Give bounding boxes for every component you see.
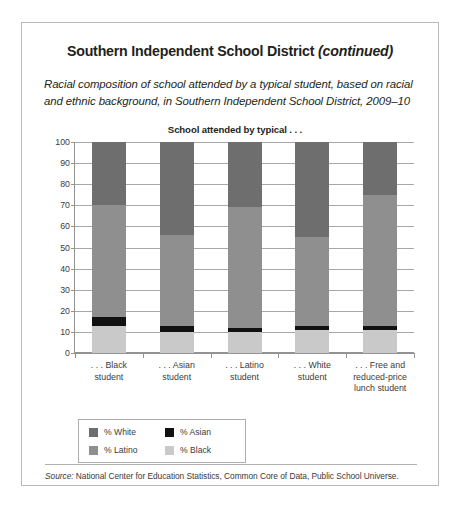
bar-segment[interactable] [92, 326, 126, 353]
legend-item-label: % White [104, 427, 136, 437]
x-axis-category-line: lunch student [339, 383, 421, 395]
x-tick-mark [346, 353, 347, 358]
y-tick-mark-100 [71, 142, 75, 143]
legend-item[interactable]: % Asian [165, 427, 235, 437]
y-axis-label-60: 60 [60, 221, 70, 231]
bar-segment[interactable] [228, 328, 262, 332]
y-tick-mark-80 [71, 184, 75, 185]
legend-item-label: % Black [180, 445, 211, 455]
legend-item[interactable]: % Latino [89, 445, 159, 455]
figure-panel: Southern Independent School District (co… [21, 22, 439, 486]
bar-stack[interactable] [160, 142, 194, 353]
legend-item-label: % Latino [104, 445, 137, 455]
plot-wrapper: 0102030405060708090100. . . Blackstudent… [22, 142, 440, 380]
bar-segment[interactable] [228, 142, 262, 207]
x-tick-mark [278, 353, 279, 358]
y-axis-label-100: 100 [55, 137, 70, 147]
legend-item-label: % Asian [180, 427, 211, 437]
y-tick-mark-20 [71, 311, 75, 312]
y-tick-mark-30 [71, 290, 75, 291]
bar-segment[interactable] [363, 142, 397, 195]
bar-segment[interactable] [160, 142, 194, 235]
bar-segment[interactable] [228, 332, 262, 353]
y-tick-mark-70 [71, 205, 75, 206]
bar-segment[interactable] [92, 317, 126, 325]
chart-container: School attended by typical . . . 0102030… [22, 124, 438, 382]
bar-segment[interactable] [363, 330, 397, 353]
y-axis-label-20: 20 [60, 306, 70, 316]
chart-legend: % White% Asian% Latino% Black [78, 419, 246, 463]
bar-segment[interactable] [160, 326, 194, 332]
y-axis-label-90: 90 [60, 158, 70, 168]
bar-segment[interactable] [295, 330, 329, 353]
y-tick-mark-10 [71, 332, 75, 333]
y-axis-label-10: 10 [60, 327, 70, 337]
legend-swatch-icon [165, 446, 174, 455]
x-axis-category-label: . . . Free andreduced-pricelunch student [339, 360, 421, 395]
page-title-continued: (continued) [318, 43, 393, 59]
legend-swatch-icon [89, 446, 98, 455]
y-axis-label-50: 50 [60, 243, 70, 253]
chart-title: School attended by typical . . . [32, 124, 438, 135]
source-citation: National Center for Education Statistics… [74, 471, 399, 481]
bar-segment[interactable] [228, 207, 262, 327]
y-axis-label-30: 30 [60, 285, 70, 295]
legend-item[interactable]: % Black [165, 445, 235, 455]
bar-segment[interactable] [160, 235, 194, 326]
source-note: Source: National Center for Education St… [45, 471, 425, 481]
bar-stack[interactable] [295, 142, 329, 353]
legend-swatch-icon [89, 428, 98, 437]
bar-segment[interactable] [363, 326, 397, 330]
bar-stack[interactable] [228, 142, 262, 353]
x-tick-mark [211, 353, 212, 358]
legend-grid: % White% Asian% Latino% Black [89, 427, 235, 455]
y-tick-mark-50 [71, 248, 75, 249]
bar-segment[interactable] [92, 205, 126, 317]
bar-segment[interactable] [295, 142, 329, 237]
x-tick-mark [414, 353, 415, 358]
bar-segment[interactable] [363, 195, 397, 326]
bar-segment[interactable] [295, 326, 329, 330]
y-tick-mark-60 [71, 226, 75, 227]
page-title-main: Southern Independent School District [67, 43, 318, 59]
figure-subtitle: Racial composition of school attended by… [44, 76, 416, 110]
bar-segment[interactable] [160, 332, 194, 353]
plot-area: 0102030405060708090100. . . Blackstudent… [74, 142, 414, 354]
bar-stack[interactable] [363, 142, 397, 353]
source-label: Source: [45, 471, 74, 481]
y-axis-label-0: 0 [65, 348, 70, 358]
y-tick-mark-40 [71, 269, 75, 270]
y-axis-label-80: 80 [60, 179, 70, 189]
y-axis-label-70: 70 [60, 200, 70, 210]
bar-stack[interactable] [92, 142, 126, 353]
page-title: Southern Independent School District (co… [22, 43, 438, 59]
x-axis-category-line: reduced-price [339, 372, 421, 384]
legend-swatch-icon [165, 428, 174, 437]
bar-segment[interactable] [295, 237, 329, 326]
x-tick-mark [143, 353, 144, 358]
x-tick-mark [75, 353, 76, 358]
legend-item[interactable]: % White [89, 427, 159, 437]
y-tick-mark-90 [71, 163, 75, 164]
source-divider [45, 464, 417, 465]
y-axis-label-40: 40 [60, 264, 70, 274]
bar-segment[interactable] [92, 142, 126, 205]
x-axis-category-line: . . . Free and [339, 360, 421, 372]
